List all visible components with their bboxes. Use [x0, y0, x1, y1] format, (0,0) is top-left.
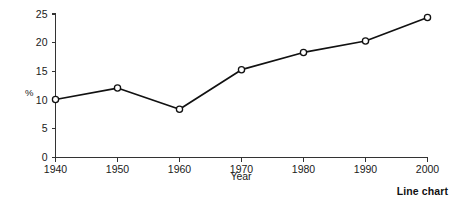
- series-line: [56, 17, 428, 109]
- y-axis-tick-labels: 0510152025: [36, 8, 48, 164]
- series-markers: [52, 14, 430, 112]
- line-chart-figure: 0510152025 1940195019601970198019902000 …: [0, 0, 459, 203]
- y-tick-label: 25: [36, 8, 48, 20]
- x-tick-label: 2000: [416, 163, 440, 175]
- y-tick-label: 10: [36, 94, 48, 106]
- chart-plot-area: 0510152025 1940195019601970198019902000 …: [0, 0, 459, 203]
- data-point-marker: [300, 49, 306, 55]
- data-point-marker: [114, 85, 120, 91]
- chart-axes: [56, 14, 428, 158]
- x-tick-label: 1960: [168, 163, 192, 175]
- y-tick-label: 0: [42, 151, 48, 163]
- data-point-marker: [362, 38, 368, 44]
- y-tick-label: 20: [36, 36, 48, 48]
- x-axis-ticks: [56, 158, 428, 162]
- x-tick-label: 1940: [44, 163, 68, 175]
- y-tick-label: 15: [36, 65, 48, 77]
- chart-caption: Line chart: [397, 185, 448, 197]
- data-point-marker: [52, 96, 58, 102]
- data-point-marker: [176, 106, 182, 112]
- y-axis-ticks: [52, 14, 56, 158]
- y-tick-label: 5: [42, 122, 48, 134]
- data-point-marker: [238, 67, 244, 73]
- axis-lines: [56, 14, 428, 158]
- x-tick-label: 1980: [292, 163, 316, 175]
- data-point-marker: [424, 14, 430, 20]
- x-tick-label: 1990: [354, 163, 378, 175]
- x-tick-label: 1950: [106, 163, 130, 175]
- x-axis-title: Year: [230, 170, 252, 182]
- data-series: [52, 14, 430, 112]
- y-axis-title: %: [25, 87, 34, 98]
